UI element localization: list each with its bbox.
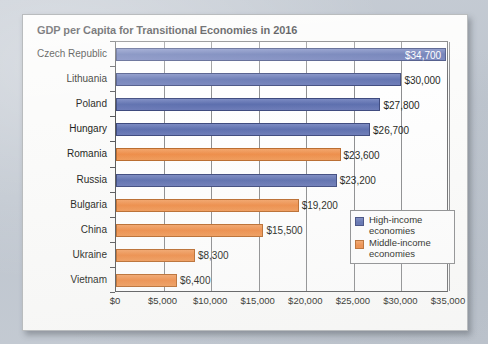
value-axis-label: $15,000 [241, 295, 275, 306]
bar-value-label: $34,700 [405, 49, 441, 60]
chart-plot-wrapper: Czech RepublicLithuaniaPolandHungaryRoma… [23, 15, 469, 332]
legend-item-high-income: High-incomeeconomies [355, 215, 449, 236]
category-label: Ukraine [73, 242, 107, 267]
bar-value-label: $19,200 [302, 200, 338, 211]
legend-label-high-income: High-incomeeconomies [369, 215, 422, 236]
category-label: China [81, 217, 107, 242]
category-label: Czech Republic [37, 41, 107, 66]
bar-poland: $27,800 [116, 98, 380, 111]
bar-russia: $23,200 [116, 174, 337, 187]
legend-swatch-high-income-icon [355, 217, 364, 226]
bar-china: $15,500 [116, 224, 263, 237]
category-label: Lithuania [66, 66, 107, 91]
category-label: Russia [76, 167, 107, 192]
category-label: Romania [67, 141, 107, 166]
value-axis-label: $10,000 [193, 295, 227, 306]
legend-item-middle-income: Middle-incomeeconomies [355, 238, 449, 259]
value-axis: $0$5,000$10,000$15,000$20,000$25,000$30,… [115, 295, 448, 311]
bar-row: $30,000 [116, 67, 449, 92]
bar-value-label: $15,500 [266, 225, 302, 236]
bar-row: $26,700 [116, 117, 449, 142]
value-axis-label: $30,000 [383, 295, 417, 306]
chart-card: GDP per Capita for Transitional Economie… [22, 14, 468, 331]
category-axis: Czech RepublicLithuaniaPolandHungaryRoma… [23, 41, 115, 292]
bar-row: $34,700 [116, 42, 449, 67]
bar-lithuania: $30,000 [116, 73, 401, 86]
bar-czech-republic: $34,700 [116, 48, 446, 61]
bar-value-label: $6,400 [180, 275, 211, 286]
bar-value-label: $23,200 [340, 175, 376, 186]
bar-value-label: $23,600 [344, 149, 380, 160]
bar-row: $27,800 [116, 92, 449, 117]
legend-label-middle-income: Middle-incomeeconomies [369, 238, 431, 259]
bar-value-label: $30,000 [404, 74, 440, 85]
category-label: Poland [76, 91, 107, 116]
category-label: Hungary [69, 116, 107, 141]
chart-legend: High-incomeeconomies Middle-incomeeconom… [350, 210, 455, 264]
value-axis-label: $35,000 [431, 295, 465, 306]
category-label: Vietnam [70, 267, 107, 292]
value-axis-label: $25,000 [336, 295, 370, 306]
bar-row: $6,400 [116, 268, 449, 293]
bar-ukraine: $8,300 [116, 249, 195, 262]
bar-bulgaria: $19,200 [116, 199, 299, 212]
value-axis-label: $20,000 [288, 295, 322, 306]
legend-swatch-middle-income-icon [355, 240, 364, 249]
bar-vietnam: $6,400 [116, 274, 177, 287]
value-axis-label: $5,000 [148, 295, 177, 306]
bar-value-label: $8,300 [198, 250, 229, 261]
bar-value-label: $27,800 [383, 99, 419, 110]
category-tick [110, 292, 115, 293]
bar-row: $23,600 [116, 142, 449, 167]
bar-romania: $23,600 [116, 148, 341, 161]
bar-hungary: $26,700 [116, 123, 370, 136]
bar-value-label: $26,700 [373, 124, 409, 135]
bar-row: $23,200 [116, 168, 449, 193]
category-label: Bulgaria [70, 192, 107, 217]
value-axis-label: $0 [110, 295, 121, 306]
